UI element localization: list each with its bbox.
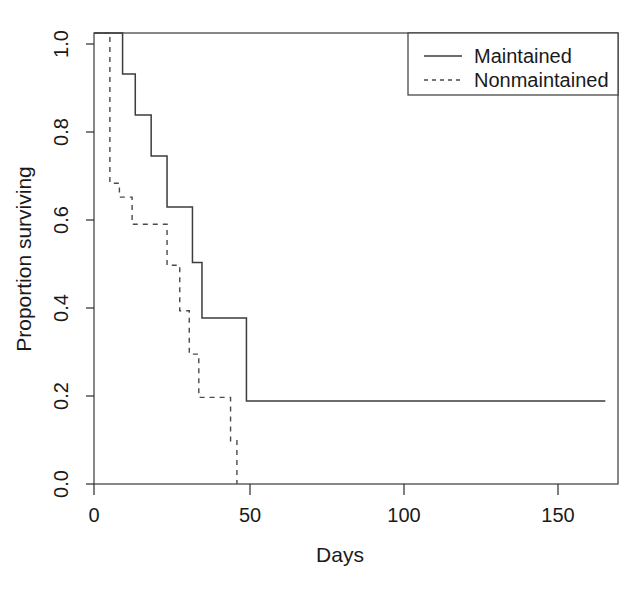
plot-frame <box>94 33 618 484</box>
y-tick-label-1.0: 1.0 <box>50 30 72 58</box>
y-axis-ticks <box>86 44 94 484</box>
survival-plot: 1.0 0.8 0.6 0.4 0.2 0.0 Proportion survi… <box>0 0 639 591</box>
legend-label-nonmaintained: Nonmaintained <box>474 69 609 91</box>
x-axis-ticks <box>94 484 558 495</box>
y-tick-label-0.6: 0.6 <box>50 206 72 234</box>
x-axis-title: Days <box>316 543 364 566</box>
series-line-nonmaintained <box>94 33 237 484</box>
y-tick-label-0.4: 0.4 <box>50 294 72 322</box>
y-tick-label-0.0: 0.0 <box>50 470 72 498</box>
legend: Maintained Nonmaintained <box>408 33 618 95</box>
y-axis-title: Proportion surviving <box>12 166 35 352</box>
y-tick-label-0.2: 0.2 <box>50 382 72 410</box>
y-tick-label-0.8: 0.8 <box>50 118 72 146</box>
y-axis-tick-labels: 1.0 0.8 0.6 0.4 0.2 0.0 <box>50 30 72 498</box>
x-tick-label-150: 150 <box>541 504 574 526</box>
x-tick-label-100: 100 <box>387 504 420 526</box>
x-tick-label-50: 50 <box>239 504 261 526</box>
legend-label-maintained: Maintained <box>474 45 572 67</box>
x-axis-tick-labels: 0 50 100 150 <box>88 504 574 526</box>
chart-page: 1.0 0.8 0.6 0.4 0.2 0.0 Proportion survi… <box>0 0 639 591</box>
x-tick-label-0: 0 <box>88 504 99 526</box>
